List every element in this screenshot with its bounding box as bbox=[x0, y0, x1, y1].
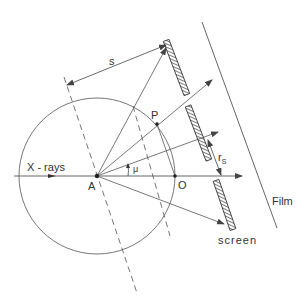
chord-p-o bbox=[157, 124, 175, 176]
diagram-canvas: X - rays A O P μ s rS Film screen bbox=[0, 0, 308, 305]
ray-to-bottom-screen bbox=[97, 176, 224, 224]
label-xrays: X - rays bbox=[27, 161, 65, 173]
screen-segment-top bbox=[163, 39, 189, 95]
label-o: O bbox=[178, 179, 187, 191]
diagram-svg: X - rays A O P μ s rS Film screen bbox=[0, 0, 308, 305]
dashed-line-through-circle bbox=[133, 106, 170, 236]
label-screen: screen bbox=[218, 234, 257, 246]
label-mu: μ bbox=[133, 164, 138, 174]
label-rs: rS bbox=[218, 151, 227, 165]
label-film: Film bbox=[272, 195, 293, 207]
point-a-marker bbox=[95, 174, 99, 178]
label-p: P bbox=[151, 109, 158, 121]
point-o-marker bbox=[173, 174, 177, 178]
label-a: A bbox=[88, 180, 96, 192]
xray-arrow-icon bbox=[48, 174, 56, 178]
label-s: s bbox=[109, 55, 115, 67]
screen-segment-middle bbox=[185, 105, 211, 161]
dashed-line-through-a bbox=[64, 77, 137, 293]
label-rs-sub: S bbox=[222, 158, 227, 165]
screen-segment-bottom bbox=[213, 179, 236, 230]
film-line bbox=[202, 22, 277, 228]
point-p-marker bbox=[155, 122, 159, 126]
s-dimension-arrow bbox=[67, 45, 166, 85]
